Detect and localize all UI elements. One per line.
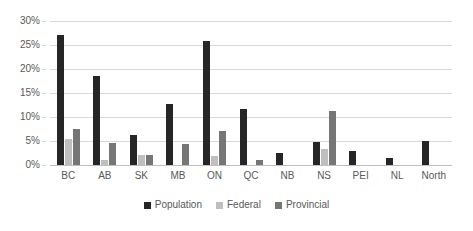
y-tick-label: 5%	[26, 136, 40, 146]
legend-label: Population	[155, 200, 202, 210]
x-tick-label-ns: NS	[306, 168, 343, 184]
legend: PopulationFederalProvincial	[0, 200, 473, 210]
bar-north-population	[422, 141, 429, 165]
bar-sk-population	[130, 135, 137, 165]
legend-label: Federal	[227, 200, 261, 210]
bar-ns-population	[313, 142, 320, 165]
legend-item-provincial[interactable]: Provincial	[275, 200, 329, 210]
x-tick-label-nl: NL	[379, 168, 416, 184]
y-tick-label: 30%	[20, 16, 40, 26]
bar-bc-population	[57, 35, 64, 165]
bar-ns-federal	[321, 149, 328, 165]
bar-ns-provincial	[329, 111, 336, 165]
legend-item-federal[interactable]: Federal	[216, 200, 261, 210]
x-tick-label-nb: NB	[269, 168, 306, 184]
y-axis: 0%5%10%15%20%25%30%	[0, 0, 46, 186]
bar-qc-population	[240, 109, 247, 165]
bar-groups	[50, 21, 452, 165]
x-tick-label-on: ON	[196, 168, 233, 184]
x-tick-label-sk: SK	[123, 168, 160, 184]
bar-chart: 0%5%10%15%20%25%30% BCABSKMBONQCNBNSPEIN…	[0, 0, 473, 231]
bar-group-nb	[269, 21, 306, 165]
bar-ab-provincial	[109, 143, 116, 165]
bar-group-sk	[123, 21, 160, 165]
bar-qc-provincial	[256, 160, 263, 165]
bar-group-nl	[379, 21, 416, 165]
y-tick-label: 0%	[26, 160, 40, 170]
bar-bc-federal	[65, 139, 72, 165]
bar-group-qc	[233, 21, 270, 165]
y-tick-mark	[42, 69, 46, 70]
y-tick-mark	[42, 21, 46, 22]
bar-group-mb	[160, 21, 197, 165]
bar-bc-provincial	[73, 129, 80, 165]
legend-swatch-icon	[216, 202, 223, 209]
y-tick-label: 20%	[20, 64, 40, 74]
y-tick-mark	[42, 45, 46, 46]
y-tick-label: 25%	[20, 40, 40, 50]
x-tick-label-mb: MB	[160, 168, 197, 184]
bar-on-provincial	[219, 131, 226, 165]
legend-label: Provincial	[286, 200, 329, 210]
x-tick-label-north: North	[415, 168, 452, 184]
x-tick-label-qc: QC	[233, 168, 270, 184]
bar-ab-population	[93, 76, 100, 165]
y-tick-mark	[42, 141, 46, 142]
bar-nl-population	[386, 158, 393, 165]
y-tick-mark	[42, 93, 46, 94]
bar-group-ns	[306, 21, 343, 165]
bar-mb-population	[166, 104, 173, 165]
bar-ab-federal	[101, 160, 108, 165]
bar-on-federal	[211, 156, 218, 165]
bar-sk-provincial	[146, 155, 153, 165]
bar-sk-federal	[138, 155, 145, 165]
y-tick-label: 10%	[20, 112, 40, 122]
y-tick-mark	[42, 165, 46, 166]
bar-group-ab	[87, 21, 124, 165]
bar-mb-provincial	[182, 144, 189, 165]
legend-swatch-icon	[144, 202, 151, 209]
bar-group-north	[415, 21, 452, 165]
x-tick-label-pei: PEI	[342, 168, 379, 184]
x-axis: BCABSKMBONQCNBNSPEINLNorth	[50, 168, 452, 184]
x-tick-label-bc: BC	[50, 168, 87, 184]
legend-swatch-icon	[275, 202, 282, 209]
x-tick-label-ab: AB	[87, 168, 124, 184]
bar-group-on	[196, 21, 233, 165]
gridline	[50, 165, 452, 166]
legend-item-population[interactable]: Population	[144, 200, 202, 210]
bar-pei-population	[349, 151, 356, 165]
bar-nb-population	[276, 153, 283, 165]
bar-group-bc	[50, 21, 87, 165]
bar-on-population	[203, 41, 210, 165]
y-tick-mark	[42, 117, 46, 118]
plot-area	[50, 21, 452, 165]
bar-group-pei	[342, 21, 379, 165]
y-tick-label: 15%	[20, 88, 40, 98]
